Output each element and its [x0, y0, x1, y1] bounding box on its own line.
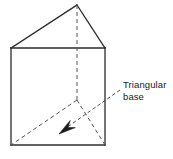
hidden-edge-base-right: [77, 100, 105, 145]
triangular-base-label-line1: Triangular: [123, 79, 166, 91]
edge-top-right-slant: [77, 5, 105, 48]
hidden-edge-base-left: [11, 100, 77, 145]
leader-line: [66, 90, 120, 128]
triangular-base-label-line2: base: [123, 91, 144, 103]
edge-top-left-slant: [11, 5, 77, 48]
solid-edges-group: [11, 5, 105, 145]
triangular-prism-figure: Triangular base: [0, 0, 173, 159]
leader-line-group: [59, 90, 120, 134]
leader-arrowhead-icon: [59, 120, 75, 134]
